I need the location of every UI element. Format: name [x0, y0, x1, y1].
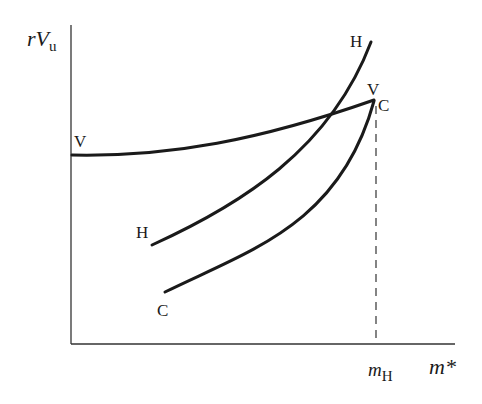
y-axis-label-sub: u	[49, 38, 57, 54]
c-curve-start-label: C	[157, 302, 168, 319]
h-curve	[152, 42, 371, 245]
mh-marker-label-sub: H	[382, 368, 393, 384]
mh-marker-label: mH	[368, 360, 393, 379]
diagram: rVu V V H H C C mH m*	[0, 0, 482, 404]
v-curve	[72, 100, 374, 155]
y-axis-label-main: rV	[27, 26, 49, 51]
mh-marker-label-main: m	[368, 359, 382, 380]
c-curve-end-label: C	[378, 97, 389, 114]
c-curve	[165, 101, 374, 292]
h-curve-end-label: H	[350, 33, 362, 50]
y-axis-label: rVu	[27, 28, 57, 50]
diagram-canvas	[0, 0, 482, 404]
v-curve-start-label: V	[74, 133, 86, 150]
h-curve-start-label: H	[136, 224, 148, 241]
x-axis-label: m*	[429, 356, 456, 378]
